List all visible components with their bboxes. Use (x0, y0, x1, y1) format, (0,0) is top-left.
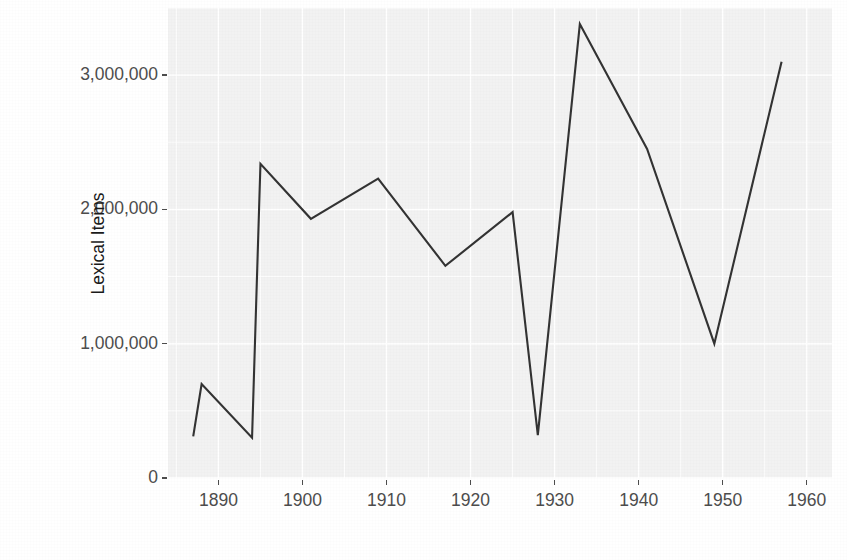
x-tick-label: 1940 (604, 492, 674, 510)
x-tickmark (806, 480, 807, 485)
x-tickmark (386, 480, 387, 485)
x-tick-label: 1960 (772, 492, 842, 510)
data-series-line (193, 24, 781, 438)
x-tickmark (722, 480, 723, 485)
x-tickmark (470, 480, 471, 485)
minor-gridlines (168, 8, 832, 478)
x-tickmark (554, 480, 555, 485)
y-axis-title: Lexical Items (88, 164, 109, 324)
x-tick-label: 1950 (688, 492, 758, 510)
y-tick-label: 3,000,000 (38, 66, 158, 84)
x-tick-label: 1910 (352, 492, 422, 510)
y-tickmark (162, 74, 167, 75)
y-tickmark (162, 343, 167, 344)
y-tickmark (162, 477, 167, 478)
x-tick-label: 1890 (183, 492, 253, 510)
x-tick-label: 1900 (267, 492, 337, 510)
y-tick-label: 0 (38, 469, 158, 487)
x-tick-label: 1920 (436, 492, 506, 510)
y-tickmark (162, 209, 167, 210)
x-tick-label: 1930 (520, 492, 590, 510)
x-tickmark (302, 480, 303, 485)
y-tick-label: 1,000,000 (38, 335, 158, 353)
chart-figure: 01,000,0002,000,0003,000,000 18901900191… (0, 0, 847, 560)
x-tickmark (218, 480, 219, 485)
x-tickmark (638, 480, 639, 485)
major-gridlines (168, 8, 832, 478)
